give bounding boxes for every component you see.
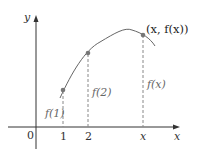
point-f2: [86, 51, 91, 56]
point-fx: [141, 33, 146, 38]
tick-2: 2: [85, 131, 92, 142]
f1-label: f(1): [45, 108, 65, 119]
tick-1: 1: [60, 131, 67, 142]
fx-label: f(x): [147, 79, 166, 90]
y-axis-label: y: [24, 12, 30, 23]
tick-x: x: [140, 131, 146, 142]
f2-label: f(2): [92, 87, 112, 98]
y-axis-arrow-icon: [34, 15, 39, 22]
point-label: (x, f(x)): [146, 24, 189, 36]
origin-label: 0: [27, 130, 34, 141]
x-axis-label: x: [174, 131, 180, 142]
point-f1: [61, 88, 66, 93]
x-axis-arrow-icon: [173, 125, 180, 130]
